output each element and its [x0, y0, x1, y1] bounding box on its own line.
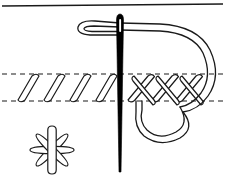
needle-eye: [119, 19, 121, 32]
stitch-diagram-figure: Needle and thread working a line of slan…: [0, 0, 225, 186]
star-center-petal: [48, 126, 56, 174]
diagram-canvas: [0, 0, 225, 186]
